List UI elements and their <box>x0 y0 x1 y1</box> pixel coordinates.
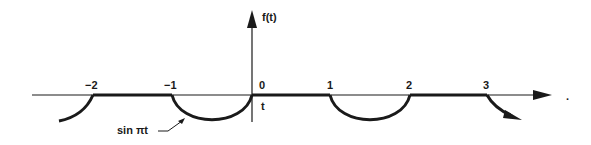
tick-label-3: 3 <box>483 79 489 91</box>
x-axis-label: t <box>261 100 265 112</box>
tick-label-neg2: −2 <box>85 79 98 91</box>
t-axis-arrow-icon <box>533 90 552 100</box>
function-label: sin πt <box>117 124 148 136</box>
tick-label-neg1: −1 <box>164 79 177 91</box>
trailing-mark: . <box>566 90 569 102</box>
curve-continuation-arrow-icon <box>503 110 522 120</box>
diagram-canvas: f(t) t sin πt . −2 −1 0 1 2 3 <box>0 0 591 145</box>
signal-curve <box>59 95 512 121</box>
f-axis-arrow-icon <box>247 10 257 28</box>
label-leader-line <box>158 121 182 131</box>
y-axis-label: f(t) <box>262 11 277 23</box>
tick-label-2: 2 <box>406 79 412 91</box>
signal-diagram: f(t) t sin πt . −2 −1 0 1 2 3 <box>0 0 591 145</box>
tick-label-0: 0 <box>259 79 265 91</box>
tick-label-1: 1 <box>327 79 333 91</box>
